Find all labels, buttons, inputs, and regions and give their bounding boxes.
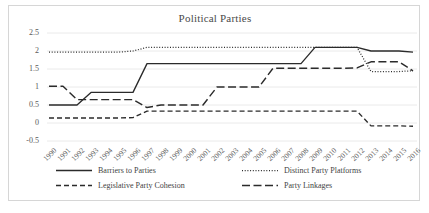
legend-swatch-dashed [55,181,93,190]
legend-swatch-solid [55,166,93,175]
legend-item[interactable]: Barriers to Parties [55,166,156,175]
legend-item[interactable]: Distinct Party Platforms [241,166,361,175]
y-tick-label: 1 [17,82,39,91]
y-tick-label: 0.5 [17,100,39,109]
legend-swatch-longdash [241,181,279,190]
y-tick-label: 1.5 [17,64,39,73]
y-tick-label: 2 [17,46,39,55]
chart-legend: Barriers to PartiesDistinct Party Platfo… [55,166,405,198]
series-line [49,111,413,126]
legend-label: Legislative Party Cohesion [98,181,185,190]
legend-label: Barriers to Parties [98,166,156,175]
legend-item[interactable]: Legislative Party Cohesion [55,181,185,190]
y-tick-label: 0 [17,118,39,127]
legend-label: Distinct Party Platforms [284,166,361,175]
chart-container: Political Parties -0.500.511.522.5 19901… [8,5,420,201]
legend-swatch-dotted [241,166,279,175]
legend-item[interactable]: Party Linkages [241,181,332,190]
series-line [49,47,413,105]
y-tick-label: -0.5 [17,136,39,145]
y-tick-label: 2.5 [17,28,39,37]
legend-label: Party Linkages [284,181,332,190]
